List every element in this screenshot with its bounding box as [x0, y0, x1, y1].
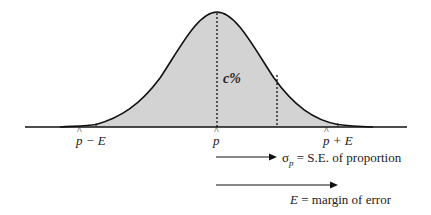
sigma-legend-text: = S.E. of proportion [294, 150, 402, 165]
confidence-level-label: c% [223, 72, 241, 86]
upper-bound-label: p + E [323, 134, 353, 147]
p-hat-symbol: p [76, 134, 83, 147]
sigma-subscript: p [289, 158, 294, 168]
lower-bound-label: p − E [76, 134, 106, 147]
sigma-symbol: σ [282, 150, 289, 165]
lower-bound-suffix: − E [83, 133, 106, 148]
margin-legend-text: = margin of error [298, 192, 391, 207]
sigma-legend: σp = S.E. of proportion [282, 151, 401, 164]
upper-bound-suffix: + E [330, 133, 353, 148]
margin-arrow-head-icon [330, 182, 338, 189]
margin-legend: E = margin of error [290, 193, 391, 206]
sigma-arrow-head-icon [269, 154, 277, 161]
normal-curve-diagram [0, 0, 431, 215]
p-hat-symbol: p [213, 134, 220, 147]
margin-symbol: E [290, 192, 298, 207]
center-label: p [213, 134, 220, 147]
p-hat-symbol: p [323, 134, 330, 147]
